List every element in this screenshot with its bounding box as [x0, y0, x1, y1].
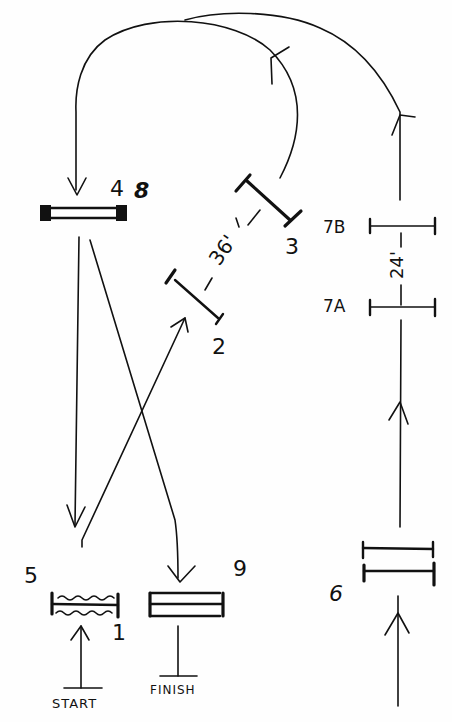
beam-6-to-7a [400, 320, 401, 527]
mirror-3 [236, 175, 301, 226]
label-mirror-1: 1 [112, 622, 126, 644]
label-mirror-4: 4 [110, 178, 124, 200]
label-distance-24: 24' [388, 251, 406, 279]
mirror-6 [363, 542, 434, 585]
label-mirror-9: 9 [233, 558, 247, 580]
arrow-head-outer-arc [392, 115, 415, 135]
label-mirror-8: 8 [134, 180, 149, 202]
beam-8-to-9 [90, 240, 178, 578]
mirror-4-8 [40, 205, 127, 221]
arrow-head-start [71, 626, 89, 640]
arrow-head-6-to-7a [389, 402, 408, 424]
optical-path-diagram: 4 8 3 2 36' 7B 7A 24' 5 1 9 6 START FINI… [0, 0, 452, 722]
label-mirror-7a: 7A [323, 298, 345, 315]
distance-tick-36-upper [248, 210, 260, 225]
mirror-5-1 [52, 593, 118, 617]
arrow-head-into-4 [68, 178, 86, 195]
label-mirror-2: 2 [212, 336, 226, 358]
beam-arc-inner [76, 21, 298, 190]
label-start: START [52, 697, 97, 710]
arrow-head-into-9 [168, 566, 195, 582]
label-mirror-7b: 7B [323, 219, 345, 236]
beam-arc-outer [185, 13, 400, 200]
mirror-7a [370, 299, 435, 316]
distance-tick-36-lower [205, 278, 212, 290]
mirror-7b [370, 218, 435, 234]
label-finish: FINISH [150, 684, 196, 696]
label-mirror-5: 5 [24, 565, 38, 587]
mirror-2 [166, 270, 223, 324]
distance-tick-36-prime [236, 218, 239, 227]
arrow-head-into-6 [385, 613, 409, 635]
beam-4-to-5 [75, 237, 79, 525]
beam-5-to-2 [82, 318, 185, 547]
arrow-head-inner-arc [271, 47, 289, 84]
diagram-drawing [0, 0, 452, 722]
label-mirror-3: 3 [285, 236, 299, 258]
mirror-9 [150, 593, 223, 616]
label-mirror-6: 6 [329, 583, 343, 605]
